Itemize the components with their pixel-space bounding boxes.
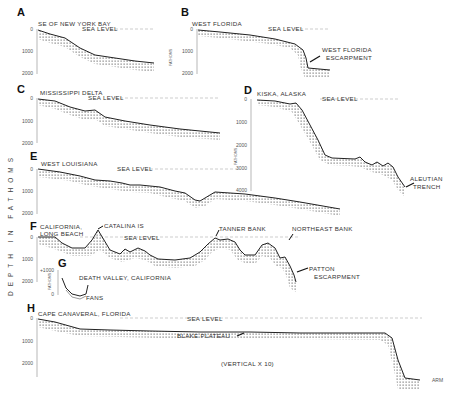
tick-label: 0 [190,26,193,32]
panel-h: H CAPE CANAVERAL, FLORIDA 0 1000 2000 SE… [22,302,443,389]
fathoms-label: FATHOMS [234,147,238,165]
sea-level-label: SEA LEVEL [82,25,118,32]
annotation-northeast-bank: NORTHEAST BANK [292,225,353,232]
tick-label: 2000 [22,360,33,366]
panel-title-line2: LONG BEACH [40,230,84,237]
panel-title-line1: CALIFORNIA, [40,223,82,230]
corner-mark: ARM [432,377,443,383]
tick-label: 0 [30,26,33,32]
sediment-band [257,100,405,197]
annotation-catalina: CATALINA IS [104,222,144,229]
arrow-icon [297,268,308,272]
tick-label: 1000 [22,48,33,54]
tick-label: 2000 [22,278,33,284]
tick-label: 0 [244,96,247,102]
panel-letter: F [30,220,37,232]
arrow-icon [98,226,103,229]
panel-letter: D [244,84,252,96]
tick-label: 0 [51,291,54,297]
tick-label: 2000 [236,142,247,148]
sediment-band [38,169,340,216]
vertical-axis-label: DEPTH IN FATHOMS [7,153,14,296]
tick-label: 4000 [236,187,247,193]
arrow-icon [310,56,320,62]
panel-b: B WEST FLORIDA 0 1000 2000 FATHOMS SEA L… [169,6,372,78]
panel-letter: G [58,257,67,269]
panel-letter: B [181,6,189,18]
annotation-blake-plateau: BLAKE PLATEAU [177,332,230,339]
sea-level-label: SEA LEVEL [187,315,223,322]
panel-letter: E [30,150,37,162]
sea-level-label: SEA LEVEL [268,25,304,32]
fathoms-label: FATHOMS [48,272,52,290]
panel-title: WEST FLORIDA [192,20,242,27]
sea-level-label: SEA LEVEL [322,95,358,102]
annotation-label: WEST FLORIDA [322,46,372,53]
tick-label: 0 [30,95,33,101]
panel-title: WEST LOUISIANA [41,160,98,167]
annotation-label: ESCARPMENT [326,54,372,61]
panel-letter: A [17,6,25,18]
tick-label: 1000 [22,338,33,344]
panel-title: KISKA, ALASKA [257,90,307,97]
annotation-label: ALEUTIAN [410,175,443,182]
tick-label: 1000 [182,48,193,54]
panel-letter: H [27,302,35,314]
sea-level-label: SEA LEVEL [124,234,160,241]
sediment-band [38,230,296,292]
sea-level-label: SEA LEVEL [88,94,124,101]
tick-label: +1000 [40,267,54,273]
panel-a: A SE OF NEW YORK BAY 0 1000 2000 SEA LEV… [17,6,155,76]
annotation-tanner-bank: TANNER BANK [219,225,266,232]
tick-label: 1000 [22,188,33,194]
panel-title: DEATH VALLEY, CALIFORNIA [79,274,172,281]
panel-c: C MISSISSIPPI DELTA 0 1000 2000 SEA LEVE… [17,83,220,146]
tick-label: 0 [30,315,33,321]
depth-profile [38,319,420,380]
panel-title: CAPE CANAVERAL, FLORIDA [38,310,131,317]
annotation-patton: ESCARPMENT [314,273,360,280]
panel-e: E WEST LOUISIANA 0 1000 2000 SEA LEVEL [22,150,340,216]
tick-label: 2000 [22,140,33,146]
tick-label: 2000 [182,70,193,76]
tick-label: 0 [30,234,33,240]
sediment-band [38,30,154,72]
tick-label: 1000 [22,256,33,262]
tick-label: 2000 [22,70,33,76]
sea-level-label: SEA LEVEL [117,165,153,172]
tick-label: 0 [30,166,33,172]
panel-d: D KISKA, ALASKA 0 1000 2000 3000 4000 FA… [234,84,443,197]
tick-label: 1000 [236,119,247,125]
panel-f: F CALIFORNIA, LONG BEACH 0 1000 2000 SEA… [22,220,360,292]
annotation-patton: PATTON [309,265,335,272]
annotation-fans: FANS [86,294,103,301]
panel-letter: C [17,83,25,95]
tick-label: 2000 [22,210,33,216]
annotation-label: TRENCH [413,183,441,190]
fathoms-label: FATHOMS [169,48,173,66]
vertical-exaggeration-note: (VERTICAL X 10) [221,360,274,367]
tick-label: 1000 [22,118,33,124]
bathymetric-profiles-figure: DEPTH IN FATHOMS A SE OF NEW YORK BAY 0 … [0,0,452,399]
